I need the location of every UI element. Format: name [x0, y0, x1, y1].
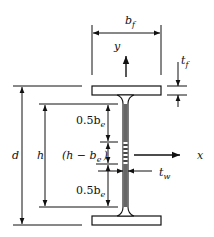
- bottom-effective-label: 0.5be: [76, 184, 106, 199]
- flange-thickness-label: tf: [181, 54, 190, 69]
- ineffective-web-hatch: [124, 142, 128, 164]
- flange-width-label: bf: [125, 14, 137, 29]
- middle-label: (h − be): [62, 149, 108, 164]
- top-flange: [92, 86, 161, 95]
- web-height-label: h: [37, 149, 44, 162]
- x-axis-label: x: [197, 149, 204, 162]
- effective-web-bottom: [124, 164, 128, 207]
- i-beam-diagram: bf y tf d h 0.5be (h − be) 0.5be x tw: [0, 0, 214, 237]
- effective-web-top: [124, 104, 128, 142]
- y-axis-label: y: [113, 40, 121, 53]
- web-thickness-label: tw: [159, 166, 170, 181]
- bottom-flange: [92, 216, 161, 225]
- top-effective-label: 0.5be: [76, 114, 106, 129]
- total-depth-label: d: [12, 149, 19, 162]
